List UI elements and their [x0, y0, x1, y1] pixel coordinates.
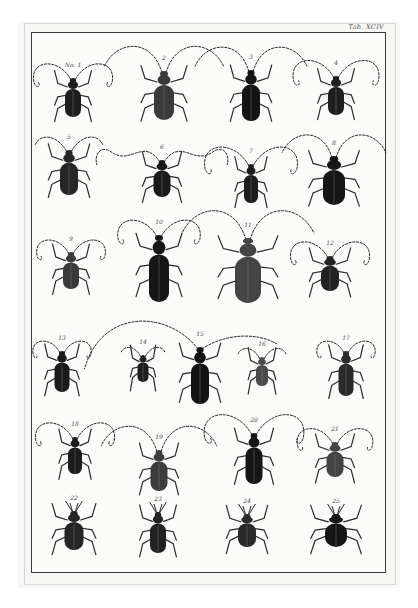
figure-number: 21 — [331, 425, 339, 432]
figure-number: 15 — [196, 330, 204, 337]
beetle-icon — [346, 373, 347, 374]
figure-number: 10 — [155, 218, 163, 225]
beetle-icon — [164, 95, 165, 96]
beetle-icon — [159, 268, 160, 269]
figure-number: 2 — [162, 54, 166, 61]
beetle-icon — [334, 180, 335, 181]
figure-number: 4 — [334, 59, 338, 66]
figure-number: 5 — [67, 133, 71, 140]
figure-number: 20 — [250, 416, 258, 423]
figure-number: 14 — [139, 338, 147, 345]
beetle-icon — [330, 273, 331, 274]
beetle-icon — [159, 470, 160, 471]
beetle-icon — [69, 172, 70, 173]
beetle-icon — [251, 183, 252, 184]
figure-number: 8 — [332, 139, 336, 146]
figure-number: 7 — [249, 147, 253, 154]
figure-number: 18 — [71, 420, 79, 427]
beetle-icon — [158, 532, 159, 533]
figure-number: 12 — [326, 239, 334, 246]
figure-number: 11 — [244, 221, 252, 228]
beetle-icon — [74, 530, 75, 531]
beetle-icon — [73, 97, 74, 98]
beetle-icon — [247, 530, 248, 531]
figure-number: 13 — [58, 334, 66, 341]
beetle-icon — [62, 371, 63, 372]
beetle-icon — [262, 371, 263, 372]
figure-number: 6 — [160, 143, 164, 150]
figure-number: 3 — [249, 53, 253, 60]
beetle-icon — [200, 375, 201, 376]
beetle-icon — [143, 368, 144, 369]
figure-number: No. 1 — [65, 61, 81, 68]
figure-number: 16 — [258, 340, 266, 347]
beetle-icon — [75, 455, 76, 456]
figure-number: 22 — [70, 494, 78, 501]
beetle-icon — [248, 270, 249, 271]
beetle-icon — [71, 270, 72, 271]
figure-number: 23 — [154, 495, 162, 502]
beetle-icon — [336, 95, 337, 96]
figure-number: 19 — [155, 433, 163, 440]
beetle-icon — [336, 530, 337, 531]
figure-number: 25 — [332, 497, 340, 504]
plate-title: Tab. XCIV — [349, 23, 384, 31]
beetle-icon — [335, 459, 336, 460]
beetle-icon — [251, 95, 252, 96]
figure-number: 9 — [69, 235, 73, 242]
beetle-icon — [254, 458, 255, 459]
figure-number: 17 — [342, 334, 350, 341]
figure-number: 24 — [243, 497, 251, 504]
beetle-icon — [162, 178, 163, 179]
